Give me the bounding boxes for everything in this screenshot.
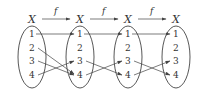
element: 1 [173, 29, 179, 39]
element: 2 [125, 43, 131, 53]
element: 3 [77, 56, 83, 66]
function-label-2: f [101, 6, 107, 16]
element: 2 [173, 43, 179, 53]
element: 1 [29, 29, 35, 39]
function-composition-diagram: X X X X f f f 1 2 3 4 1 2 3 4 1 2 3 4 1 … [0, 0, 200, 94]
set-label-1: X [27, 13, 37, 26]
element: 3 [173, 56, 179, 66]
set-label-4: X [171, 13, 181, 26]
function-label-3: f [149, 6, 155, 16]
element: 1 [77, 29, 83, 39]
function-label-1: f [53, 6, 59, 16]
element: 4 [29, 70, 35, 80]
set-label-2: X [75, 13, 85, 26]
element: 4 [77, 70, 83, 80]
set-label-3: X [123, 13, 133, 26]
element: 4 [173, 70, 179, 80]
element: 3 [125, 56, 131, 66]
element: 2 [77, 43, 83, 53]
element: 4 [125, 70, 131, 80]
element: 1 [125, 29, 131, 39]
element: 3 [29, 56, 35, 66]
element: 2 [29, 43, 35, 53]
